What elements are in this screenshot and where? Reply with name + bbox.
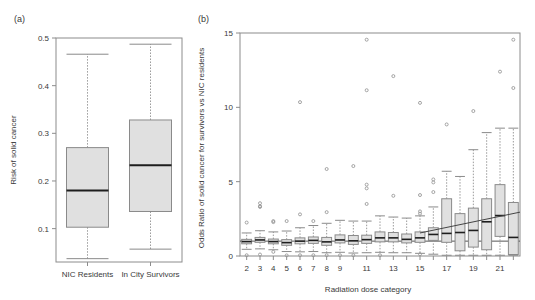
box-iqr [508,202,518,254]
outlier-point [419,253,422,256]
panel-a-x-tick-label: NIC Residents [62,270,114,279]
panel-b-y-tick-label: 5 [229,178,234,187]
panel-a-label: (a) [14,14,25,24]
outlier-point [419,212,422,215]
outlier-point [299,213,302,216]
panel-b-y-tick-label: 10 [224,103,233,112]
panel-b-x-tick-label: 13 [389,264,398,273]
outlier-point [432,181,435,184]
box-iqr [402,234,412,243]
panel-a-boxes [67,44,172,258]
panel-b-y-tick-label: 15 [224,29,233,38]
outlier-point [419,194,422,197]
panel-a-y-tick-label: 0.3 [38,129,50,138]
panel-b-x-tick-label: 7 [311,264,316,273]
outlier-point [392,194,395,197]
panel-b-x-tick-label: 19 [469,264,478,273]
outlier-point [419,101,422,104]
panel-b-boxes [242,38,520,257]
panel-b-x-tick-label: 6 [298,264,303,273]
panel-b-boxplot [468,110,478,256]
outlier-point [365,202,368,205]
outlier-point [299,101,302,104]
outlier-point [445,123,448,126]
panel-b-boxplot [375,216,385,257]
panel-b-x-tick-label: 17 [442,264,451,273]
box-iqr [468,208,478,247]
outlier-point [272,250,275,253]
panel-b-boxplot [482,133,492,256]
panel-a-risk-of-solid-cancer: (a) 0.10.20.30.40.5NIC ResidentsIn City … [0,0,195,300]
panel-b-boxplot [362,38,372,253]
panel-a-y-tick-label: 0.4 [38,82,50,91]
panel-b-x-tick-label: 3 [258,264,263,273]
outlier-point [312,220,315,223]
panel-b-x-tick-label: 21 [496,264,505,273]
outlier-point [432,191,435,194]
panel-b-svg: (b) 05101523456789111315171921 Odds Rati… [190,0,535,300]
box-iqr [442,199,452,243]
panel-b-boxplot [242,221,252,257]
box-iqr [67,148,109,228]
panel-b-x-tick-label: 11 [363,264,372,273]
outlier-point [245,221,248,224]
panel-b-x-tick-label: 8 [324,264,329,273]
panel-a-y-tick-label: 0.1 [38,225,50,234]
outlier-point [325,168,328,171]
panel-a-boxplot [130,44,172,249]
outlier-point [512,87,515,90]
figure-container: (a) 0.10.20.30.40.5NIC ResidentsIn City … [0,0,535,300]
outlier-point [365,187,368,190]
panel-b-boxplot [282,220,292,257]
panel-b-boxplot [495,70,505,255]
outlier-point [392,75,395,78]
panel-a-y-axis-title: Risk of solid cancer [9,115,18,185]
panel-b-odds-ratio: (b) 05101523456789111315171921 Odds Rati… [190,0,535,300]
panel-b-label: (b) [198,14,209,24]
box-iqr [375,232,385,242]
panel-b-y-tick-label: 0 [229,252,234,261]
outlier-point [365,183,368,186]
box-iqr [482,199,492,250]
panel-b-x-tick-label: 2 [244,264,249,273]
panel-a-svg: (a) 0.10.20.30.40.5NIC ResidentsIn City … [0,0,195,300]
box-iqr [348,235,358,244]
panel-b-x-axis-title: Radiation dose category [325,285,411,294]
panel-a-y-tick-label: 0.5 [38,34,50,43]
outlier-point [365,89,368,92]
panel-b-x-tick-label: 9 [338,264,343,273]
box-iqr [335,235,345,243]
panel-b-boxplot [255,202,265,256]
panel-b-x-tick-label: 4 [271,264,276,273]
outlier-point [365,38,368,41]
outlier-point [259,253,262,256]
box-iqr [495,185,505,237]
panel-b-boxplot [455,176,465,255]
outlier-point [499,70,502,73]
outlier-point [352,165,355,168]
panel-b-boxplot [322,168,332,257]
panel-b-boxplot [402,218,412,253]
panel-a-y-tick-label: 0.2 [38,177,50,186]
panel-b-boxplot [295,101,305,257]
panel-b-boxplot [442,123,452,255]
panel-b-boxplot [268,220,278,254]
panel-a-x-tick-label: In City Survivors [121,270,179,279]
outlier-point [325,211,328,214]
panel-b-boxplot [308,220,318,257]
outlier-point [512,38,515,41]
panel-b-boxplot [335,220,345,256]
panel-b-boxplot [388,75,398,253]
panel-b-y-axis-title: Odds Ratio of solid cancer for survivors… [197,48,206,249]
panel-a-boxplot [67,54,109,258]
panel-b-boxplot [428,178,438,254]
panel-b-x-tick-label: 15 [416,264,425,273]
outlier-point [472,110,475,113]
panel-b-x-tick-label: 5 [284,264,289,273]
panel-b-boxplot [508,38,518,255]
panel-b-boxplot [348,165,358,257]
outlier-point [285,220,288,223]
